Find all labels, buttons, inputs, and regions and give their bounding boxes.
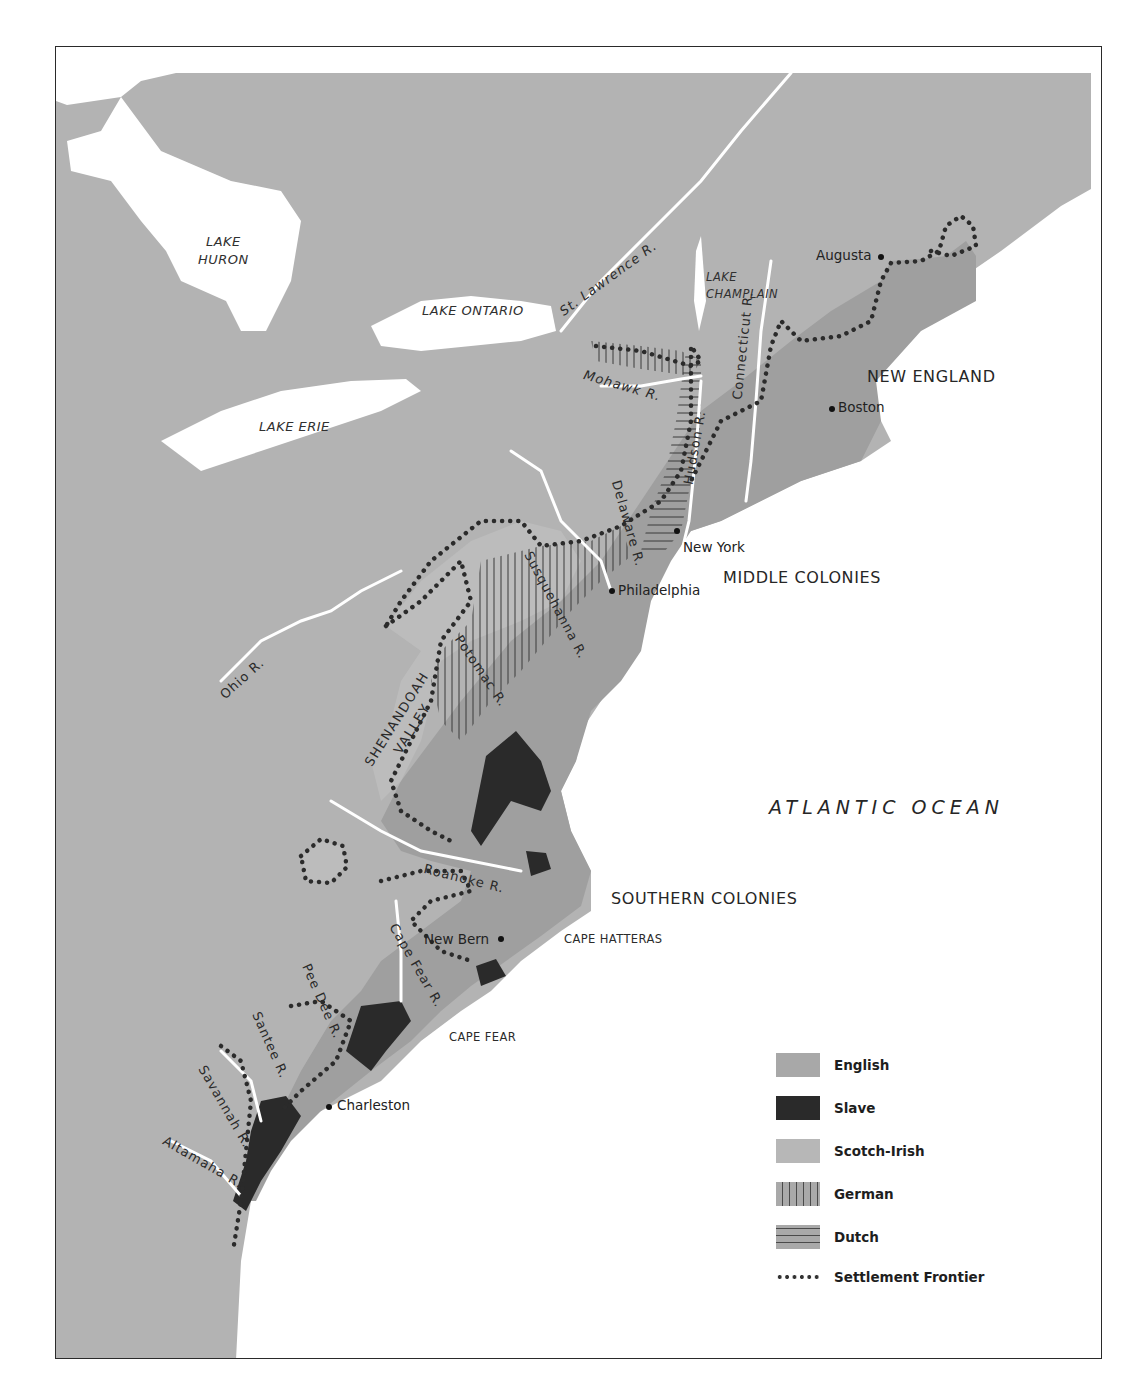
legend-item-dutch: Dutch [776,1224,879,1250]
legend-item-scotch-irish: Scotch-Irish [776,1138,925,1164]
label-lake-erie: LAKE ERIE [259,419,330,434]
legend-label: Slave [834,1100,875,1116]
label-southern-colonies: SOUTHERN COLONIES [611,889,797,908]
german-swatch-icon [776,1182,820,1206]
label-lake-huron: LAKE HURON [198,233,249,269]
legend-label: German [834,1186,894,1202]
label-philadelphia: Philadelphia [618,582,700,598]
legend-label: Scotch-Irish [834,1143,925,1159]
city-marker-philadelphia [609,588,615,594]
legend-item-slave: Slave [776,1095,875,1121]
legend-item-german: German [776,1181,894,1207]
map-frame: LAKE HURON LAKE ONTARIO LAKE ERIE LAKE C… [55,46,1102,1359]
legend-label: Settlement Frontier [834,1269,984,1285]
legend-label: Dutch [834,1229,879,1245]
label-boston: Boston [838,399,885,415]
legend-label: English [834,1057,889,1073]
label-new-bern: New Bern [424,931,489,947]
city-marker-new-bern [498,936,504,942]
label-new-york: New York [683,539,745,555]
label-atlantic-ocean: ATLANTIC OCEAN [769,796,1004,818]
city-marker-boston [829,406,835,412]
label-charleston: Charleston [337,1097,410,1113]
english-swatch-icon [776,1053,820,1077]
city-marker-new-york [674,528,680,534]
dutch-swatch-icon [776,1225,820,1249]
label-cape-fear: CAPE FEAR [449,1030,516,1044]
label-middle-colonies: MIDDLE COLONIES [723,568,881,587]
legend-item-english: English [776,1052,889,1078]
label-lake-ontario: LAKE ONTARIO [422,303,524,318]
label-augusta: Augusta [816,247,872,263]
label-cape-hatteras: CAPE HATTERAS [564,932,662,946]
slave-swatch-icon [776,1096,820,1120]
scotch-irish-swatch-icon [776,1139,820,1163]
city-marker-charleston [326,1104,332,1110]
frontier-dots-icon [776,1274,820,1280]
label-new-england: NEW ENGLAND [867,367,996,386]
legend-item-frontier: Settlement Frontier [776,1264,984,1290]
city-marker-augusta [878,254,884,260]
